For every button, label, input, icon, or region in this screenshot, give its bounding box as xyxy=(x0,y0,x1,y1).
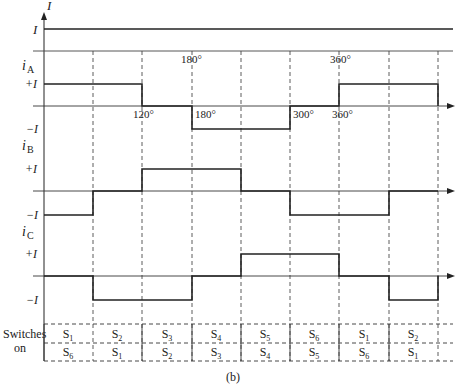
svg-text:C: C xyxy=(27,230,34,241)
svg-text:−I: −I xyxy=(26,208,39,222)
arrow-right-icon xyxy=(447,273,455,279)
y-axis xyxy=(41,12,47,361)
svg-text:S5: S5 xyxy=(260,327,271,343)
svg-text:B: B xyxy=(27,144,34,155)
arrow-up-icon xyxy=(41,12,47,20)
svg-text:360°: 360° xyxy=(330,53,351,65)
switches-table: Switches on S1 S2 S3 S4 S5 S6 S1 S2 S xyxy=(3,324,453,361)
svg-text:A: A xyxy=(27,64,35,75)
svg-text:S2: S2 xyxy=(408,327,419,343)
svg-text:S4: S4 xyxy=(260,345,271,361)
switches-label-on: on xyxy=(14,341,26,355)
svg-text:180°: 180° xyxy=(181,53,202,65)
svg-text:300°: 300° xyxy=(293,108,314,120)
switches-label: Switches xyxy=(3,327,47,341)
y-axis-label: I xyxy=(46,0,52,13)
svg-text:i: i xyxy=(22,58,26,73)
ib-waveform: i B +I −I xyxy=(22,138,455,222)
svg-text:120°: 120° xyxy=(133,108,154,120)
svg-text:S5: S5 xyxy=(309,345,320,361)
svg-text:+I: +I xyxy=(25,77,38,91)
arrow-right-icon xyxy=(447,188,455,194)
svg-text:i: i xyxy=(22,138,26,153)
svg-text:S1: S1 xyxy=(63,327,74,343)
ia-waveform: i A +I −I 180° 360° 120° 180° 300° 360° xyxy=(22,53,455,136)
svg-text:+I: +I xyxy=(25,247,38,261)
svg-text:S6: S6 xyxy=(309,327,320,343)
svg-text:180°: 180° xyxy=(195,108,216,120)
svg-text:S1: S1 xyxy=(408,345,419,361)
svg-text:S4: S4 xyxy=(211,327,222,343)
arrow-right-icon xyxy=(447,103,455,109)
svg-text:360°: 360° xyxy=(332,108,353,120)
svg-text:+I: +I xyxy=(25,162,38,176)
dc-current-label: I xyxy=(32,22,38,37)
svg-text:S1: S1 xyxy=(359,327,370,343)
svg-text:i: i xyxy=(22,224,26,239)
waveform-diagram: I I i A +I −I 180° 360° 120° 180° 300° 3… xyxy=(0,0,456,390)
svg-text:S2: S2 xyxy=(162,345,173,361)
svg-text:S2: S2 xyxy=(112,327,123,343)
svg-text:S3: S3 xyxy=(211,345,222,361)
ic-waveform: i C +I −I xyxy=(22,224,455,307)
svg-text:S3: S3 xyxy=(162,327,173,343)
svg-text:−I: −I xyxy=(26,293,39,307)
figure-caption: (b) xyxy=(226,370,240,384)
svg-text:−I: −I xyxy=(26,122,39,136)
svg-text:S1: S1 xyxy=(112,345,123,361)
dashed-gridlines xyxy=(93,51,438,361)
svg-text:S6: S6 xyxy=(63,345,74,361)
svg-text:S6: S6 xyxy=(359,345,370,361)
